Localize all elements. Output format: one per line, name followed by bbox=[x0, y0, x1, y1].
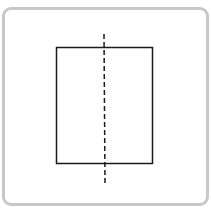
symmetry-line bbox=[104, 34, 105, 183]
diagram-canvas bbox=[0, 0, 211, 213]
